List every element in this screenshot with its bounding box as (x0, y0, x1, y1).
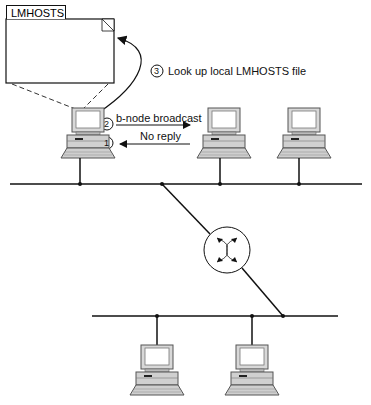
step-3-label: Look up local LMHOSTS file (168, 65, 306, 77)
step-2-number: 2 (104, 118, 109, 130)
step-3-number: 3 (154, 65, 159, 77)
step-2-label: b-node broadcast (116, 112, 202, 124)
lmhosts-file-icon (6, 19, 114, 83)
computer-2 (197, 108, 251, 158)
computer-4 (130, 345, 184, 395)
lmhosts-file-label: LMHOSTS (6, 5, 66, 19)
lmhosts-diagram: LMHOSTS 2 b-node broadcast 1 No reply 3 … (0, 0, 371, 405)
computer-5 (225, 345, 279, 395)
router-icon (204, 227, 250, 273)
computer-source (61, 108, 115, 158)
step-1-number: 1 (104, 137, 109, 149)
diagram-canvas (0, 0, 371, 405)
step-1-label: No reply (140, 130, 181, 142)
computer-3 (277, 108, 331, 158)
